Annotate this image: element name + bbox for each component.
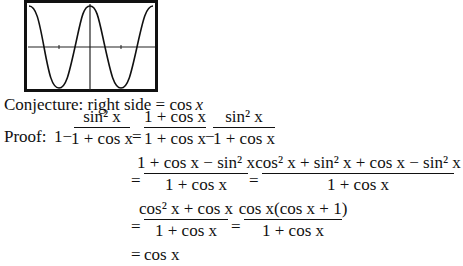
denominator: 1 + cos x (153, 222, 219, 239)
numerator: cos² x + cos x (137, 200, 235, 217)
denominator: 1 + cos x (163, 176, 229, 193)
equals-sign: = (249, 172, 259, 189)
graph-svg (24, 0, 158, 92)
proof-result: cos x (144, 246, 179, 263)
denominator: 1 + cos x (325, 176, 391, 193)
numerator: sin² x (81, 108, 123, 125)
fraction-bar (262, 173, 454, 174)
fraction-bar (74, 127, 130, 128)
cosine-graph (24, 0, 158, 92)
proof-label: Proof: (4, 128, 47, 145)
denominator: 1 + cos x (260, 222, 326, 239)
numerator: 1 + cos x − sin² x (135, 154, 257, 171)
fraction-bar (144, 219, 228, 220)
fraction: 1 + cos x 1 + cos x (144, 108, 206, 147)
fraction-bar (144, 127, 206, 128)
numerator: sin² x (223, 108, 265, 125)
denominator: 1 + cos x (211, 130, 277, 147)
fraction: sin² x 1 + cos x (74, 108, 130, 147)
equals-sign: = (231, 218, 241, 235)
fraction: 1 + cos x − sin² x 1 + cos x (144, 154, 248, 193)
equals-sign: = (132, 128, 142, 145)
numerator: 1 + cos x (142, 108, 208, 125)
equals-sign: = (131, 246, 141, 263)
denominator: 1 + cos x (142, 130, 208, 147)
fraction-bar (244, 219, 342, 220)
fraction-bar (144, 173, 248, 174)
fraction: cos x(cos x + 1) 1 + cos x (244, 200, 342, 239)
fraction: cos² x + cos x 1 + cos x (144, 200, 228, 239)
fraction: cos² x + sin² x + cos x − sin² x 1 + cos… (262, 154, 454, 193)
equals-sign: = (131, 218, 141, 235)
fraction: sin² x 1 + cos x (213, 108, 275, 147)
equals-sign: = (131, 172, 141, 189)
denominator: 1 + cos x (69, 130, 135, 147)
fraction-bar (213, 127, 275, 128)
numerator: cos x(cos x + 1) (237, 200, 350, 217)
numerator: cos² x + sin² x + cos x − sin² x (253, 154, 463, 171)
